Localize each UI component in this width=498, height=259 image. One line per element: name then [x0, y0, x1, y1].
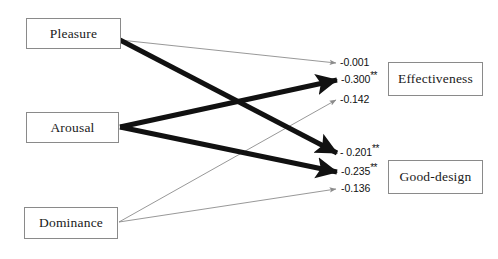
node-label-arousal: Arousal — [50, 120, 94, 136]
node-box-effectiveness[interactable]: Effectiveness — [388, 62, 483, 96]
coefficient-label-arousal-good-design: -0.235** — [341, 165, 377, 177]
node-label-dominance: Dominance — [39, 215, 103, 231]
coefficient-value: -0.235 — [341, 165, 370, 177]
coefficient-value: - 0.201 — [340, 146, 372, 158]
significance-stars: ** — [372, 143, 379, 154]
significance-stars: ** — [370, 70, 377, 81]
node-label-effectiveness: Effectiveness — [398, 71, 473, 87]
coefficient-value: -0.300 — [341, 73, 370, 85]
node-box-dominance[interactable]: Dominance — [24, 207, 118, 239]
coefficient-value: -0.136 — [341, 182, 370, 194]
path-arrow-dominance-good-design — [119, 189, 336, 222]
path-diagram: Pleasure Arousal Dominance Effectiveness… — [0, 0, 498, 259]
node-label-pleasure: Pleasure — [50, 26, 97, 42]
coefficient-label-pleasure-good-design: - 0.201** — [340, 146, 379, 158]
coefficient-label-dominance-good-design: -0.136 — [341, 182, 370, 194]
coefficient-label-arousal-effectiveness: -0.300** — [341, 73, 377, 85]
coefficient-label-pleasure-effectiveness: -0.001 — [340, 56, 369, 68]
node-label-good-design: Good-design — [400, 169, 472, 185]
path-arrow-arousal-effectiveness — [120, 80, 337, 127]
node-box-arousal[interactable]: Arousal — [26, 112, 119, 143]
coefficient-value: -0.142 — [340, 93, 369, 105]
significance-stars: ** — [370, 162, 377, 173]
node-box-good-design[interactable]: Good-design — [388, 160, 483, 194]
coefficient-label-dominance-effectiveness: -0.142 — [340, 93, 369, 105]
coefficient-value: -0.001 — [340, 56, 369, 68]
node-box-pleasure[interactable]: Pleasure — [26, 18, 121, 49]
